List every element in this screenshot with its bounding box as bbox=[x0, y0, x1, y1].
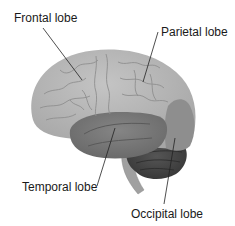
frontal-lobe-label: Frontal lobe bbox=[14, 11, 77, 25]
brain-lobes-diagram: Frontal lobe Parietal lobe Temporal lobe… bbox=[0, 0, 235, 226]
temporal-lobe-label: Temporal lobe bbox=[22, 180, 97, 194]
occipital-lobe-label: Occipital lobe bbox=[131, 207, 203, 221]
parietal-lobe-label: Parietal lobe bbox=[161, 25, 228, 39]
occipital-lobe-region bbox=[165, 99, 195, 151]
